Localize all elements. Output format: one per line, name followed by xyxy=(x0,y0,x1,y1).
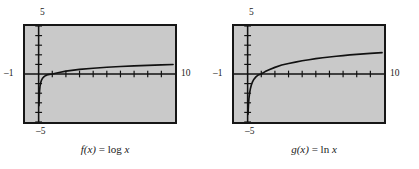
caption-ln: g(x) = ln x xyxy=(209,143,419,155)
calculator-screen-ln xyxy=(232,24,386,124)
panel-ln-graph: 5 –5 –1 10 g(x) = ln x xyxy=(209,0,419,169)
y-max-label: 5 xyxy=(249,8,254,18)
caption-equals: = xyxy=(309,143,321,155)
x-min-label: –1 xyxy=(213,69,223,79)
caption-variable: x xyxy=(332,143,337,155)
y-min-label: –5 xyxy=(36,127,46,137)
x-max-label: 10 xyxy=(390,69,400,79)
caption-function-name: g(x) xyxy=(291,143,309,155)
curve-log xyxy=(39,64,173,105)
x-max-label: 10 xyxy=(181,69,191,79)
caption-log: f(x) = log x xyxy=(0,143,210,155)
caption-variable: x xyxy=(124,143,129,155)
caption-operator: ln xyxy=(321,143,330,155)
caption-operator: log xyxy=(108,143,122,155)
y-max-label: 5 xyxy=(40,8,45,18)
plot-ln xyxy=(234,26,384,122)
y-min-label: –5 xyxy=(245,127,255,137)
caption-function-name: f(x) xyxy=(81,143,96,155)
plot-log xyxy=(25,26,175,122)
figure-two-log-graphs: 5 –5 –1 10 f(x) = log x xyxy=(0,0,419,169)
x-min-label: –1 xyxy=(4,69,14,79)
panel-log-graph: 5 –5 –1 10 f(x) = log x xyxy=(0,0,210,169)
caption-equals: = xyxy=(96,143,108,155)
calculator-screen-log xyxy=(23,24,177,124)
curve-ln xyxy=(248,53,382,115)
